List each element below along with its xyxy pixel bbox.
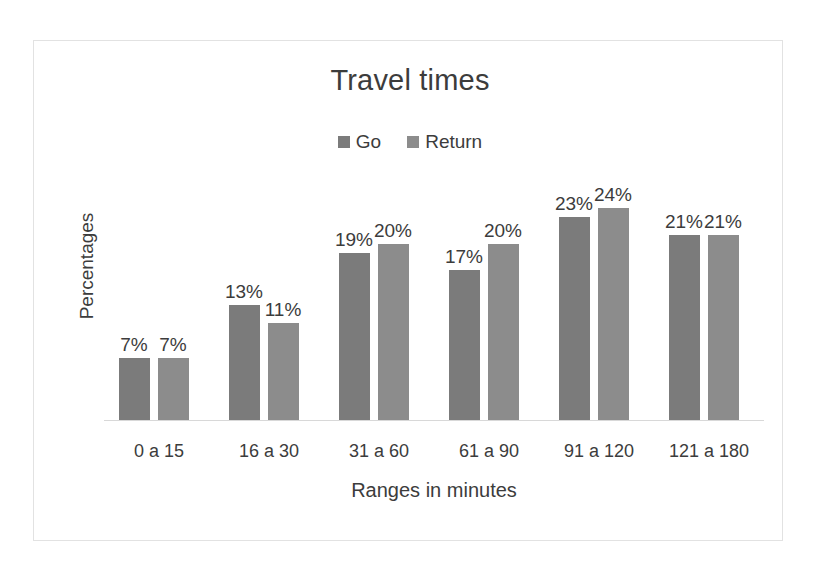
x-axis-label: 121 a 180 [654,440,764,462]
bar-ret[interactable] [268,323,299,420]
bar-go[interactable] [229,305,260,420]
bar-ret[interactable] [598,208,629,420]
bar-go[interactable] [119,358,150,420]
bar-group: 13%11% [214,160,324,420]
legend-swatch-return [407,136,419,148]
x-axis-line [104,420,764,421]
bar-go[interactable] [339,253,370,420]
bar-ret[interactable] [378,244,409,420]
chart-legend: Go Return [150,131,670,153]
x-axis-category-labels: 0 a 1516 a 3031 a 6061 a 9091 a 120121 a… [104,440,764,466]
bar-group: 17%20% [434,160,544,420]
bar-value-label-ret: 11% [256,299,310,320]
chart-title: Travel times [150,62,670,98]
x-axis-label: 61 a 90 [434,440,544,462]
legend-label-return: Return [425,131,482,153]
bar-go[interactable] [669,235,700,420]
bar-ret[interactable] [158,358,189,420]
plot-area: 7%7%13%11%19%20%17%20%23%24%21%21% [104,160,764,421]
bar-value-label-ret: 20% [366,220,420,241]
bar-value-label-ret: 7% [146,334,200,355]
x-axis-title: Ranges in minutes [104,478,764,502]
bar-value-label-ret: 20% [476,220,530,241]
bar-go[interactable] [449,270,480,420]
bar-ret[interactable] [488,244,519,420]
bar-group: 19%20% [324,160,434,420]
bar-go[interactable] [559,217,590,420]
bar-group: 21%21% [654,160,764,420]
legend-label-go: Go [356,131,381,153]
x-axis-label: 16 a 30 [214,440,324,462]
bar-group: 7%7% [104,160,214,420]
bar-value-label-go: 17% [437,246,491,267]
chart-container: Travel times Go Return Percentages 7%7%1… [0,0,815,570]
y-axis-title: Percentages [76,176,98,356]
x-axis-label: 31 a 60 [324,440,434,462]
bar-value-label-ret: 21% [696,211,750,232]
x-axis-label: 91 a 120 [544,440,654,462]
legend-swatch-go [338,136,350,148]
legend-entry-return[interactable]: Return [407,131,482,153]
bar-group: 23%24% [544,160,654,420]
bar-value-label-ret: 24% [586,184,640,205]
bar-ret[interactable] [708,235,739,420]
x-axis-label: 0 a 15 [104,440,214,462]
legend-entry-go[interactable]: Go [338,131,381,153]
